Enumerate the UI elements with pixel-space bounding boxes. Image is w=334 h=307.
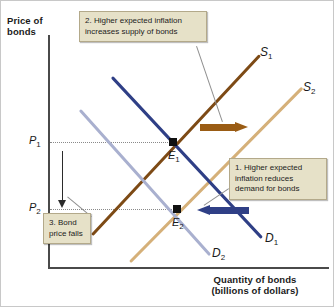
- curve-label-s1: S1: [260, 45, 272, 61]
- d1-subscript: 1: [274, 238, 278, 247]
- y-axis-label-line1: Price of: [7, 15, 51, 26]
- price-fall-arrow-down: [58, 151, 67, 209]
- x-axis-label-line2: (billions of dollars): [177, 285, 333, 296]
- bond-market-diagram: Price of bonds Quantity of bonds (billio…: [0, 0, 334, 307]
- y-axis-label: Price of bonds: [7, 15, 51, 37]
- x-axis-label: Quantity of bonds (billions of dollars): [177, 274, 333, 296]
- supply-shift-arrow-right: [200, 122, 248, 133]
- equilibrium-point-e2: [173, 205, 181, 213]
- arrow-shaft: [200, 124, 236, 131]
- e2-subscript: 2: [179, 222, 183, 231]
- callout-price-falls: 3. Bond price falls: [43, 213, 91, 244]
- curve-label-d2: D2: [212, 246, 225, 262]
- x-axis-label-line1: Quantity of bonds: [177, 274, 333, 285]
- s2-letter: S: [303, 80, 311, 94]
- e1-subscript: 1: [175, 155, 179, 164]
- equilibrium-label-e2: E2: [172, 216, 184, 231]
- equilibrium-point-e1: [169, 138, 177, 146]
- s1-subscript: 1: [268, 52, 272, 61]
- s1-letter: S: [260, 45, 268, 59]
- d2-letter: D: [212, 246, 221, 260]
- price-label-p2: P2: [29, 201, 41, 216]
- arrow-head: [58, 200, 66, 208]
- y-axis-label-line2: bonds: [7, 26, 51, 37]
- d2-subscript: 2: [221, 253, 225, 262]
- callout-demand-shift: 1. Higher expected inflation reduces dem…: [229, 158, 327, 200]
- arrow-head: [235, 122, 248, 132]
- p2-subscript: 2: [36, 207, 40, 216]
- curve-label-d1: D1: [265, 231, 278, 247]
- x-axis: [48, 267, 329, 269]
- s2-subscript: 2: [311, 87, 315, 96]
- arrow-shaft: [210, 207, 249, 214]
- demand-curve-d2: [78, 109, 211, 256]
- callout-supply-shift: 2. Higher expected inflation increases s…: [79, 11, 207, 42]
- demand-shift-arrow-left: [197, 205, 249, 216]
- d1-letter: D: [265, 231, 274, 245]
- price-label-p1: P1: [29, 134, 41, 149]
- arrow-head: [197, 205, 210, 215]
- curve-label-s2: S2: [303, 80, 315, 96]
- arrow-shaft: [62, 151, 63, 201]
- equilibrium-label-e1: E1: [168, 149, 180, 164]
- p1-subscript: 1: [36, 140, 40, 149]
